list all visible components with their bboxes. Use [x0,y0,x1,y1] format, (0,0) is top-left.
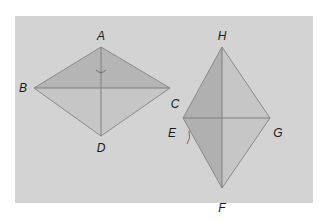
label-d: D [97,141,106,155]
label-f: F [218,201,226,215]
figure-background [15,16,313,203]
rhombus-diagram: A B D H C E G F [0,0,325,221]
label-g: G [273,126,282,140]
geometry-figure: A B D H C E G F [0,0,325,221]
label-h: H [218,29,227,43]
label-a: A [96,29,105,43]
label-e: E [168,126,177,140]
label-c: C [171,97,180,111]
label-b: B [19,81,27,95]
